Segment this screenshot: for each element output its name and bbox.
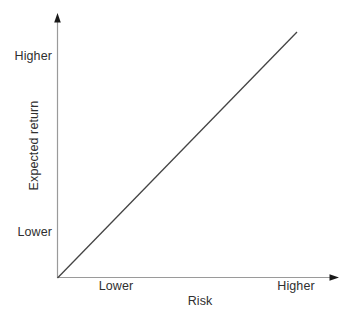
- y-axis-tick-higher: Higher: [0, 50, 52, 63]
- y-axis-tick-lower: Lower: [0, 226, 52, 239]
- x-axis-title: Risk: [172, 295, 228, 308]
- y-axis-title: Expected return: [28, 98, 41, 194]
- x-axis-tick-higher: Higher: [273, 280, 319, 293]
- chart-plot-area: [0, 0, 358, 313]
- x-axis-tick-lower: Lower: [93, 280, 139, 293]
- arrow-right-icon: [330, 274, 340, 281]
- risk-return-line: [58, 32, 298, 278]
- risk-return-chart: Higher Lower Expected return Lower Highe…: [0, 0, 358, 313]
- arrow-up-icon: [54, 13, 61, 23]
